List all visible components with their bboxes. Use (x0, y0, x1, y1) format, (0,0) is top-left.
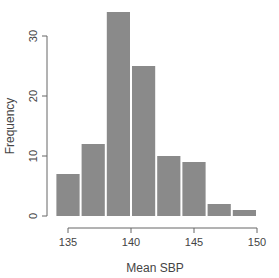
y-axis-label: Frequency (3, 98, 17, 155)
histogram-chart: 0102030 135140145150 Frequency Mean SBP (0, 0, 279, 278)
histogram-bar (208, 204, 231, 216)
y-tick-label: 0 (27, 213, 39, 219)
histogram-bar (157, 156, 180, 216)
x-axis-label: Mean SBP (126, 261, 183, 275)
y-tick-label: 20 (27, 90, 39, 102)
y-tick-label: 30 (27, 30, 39, 42)
x-tick-label: 150 (248, 236, 266, 248)
x-tick-label: 145 (185, 236, 203, 248)
histogram-bar (182, 162, 205, 216)
histogram-bar (132, 66, 155, 216)
histogram-bars (56, 12, 256, 216)
histogram-bar (56, 174, 79, 216)
histogram-bar (82, 144, 105, 216)
x-tick-label: 140 (122, 236, 140, 248)
histogram-bar (107, 12, 130, 216)
y-tick-label: 10 (27, 150, 39, 162)
histogram-bar (233, 210, 256, 216)
y-axis: 0102030 (27, 30, 47, 219)
x-tick-label: 135 (59, 236, 77, 248)
x-axis: 135140145150 (59, 228, 266, 248)
